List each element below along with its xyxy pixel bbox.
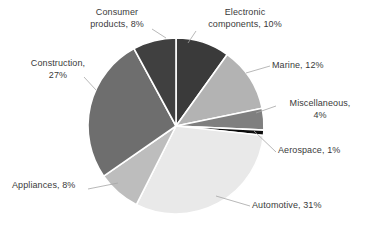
pie-label-miscellaneous: Miscellaneous, 4% bbox=[278, 98, 362, 121]
pie-label-electronic-components: Electronic components, 10% bbox=[186, 7, 304, 30]
pie-label-appliances-text: Appliances, 8% bbox=[12, 180, 98, 192]
pie-label-marine-text: Marine, 12% bbox=[272, 60, 358, 72]
pie-label-electronic-components-line1: Electronic bbox=[186, 7, 304, 19]
pie-label-construction-line2: 27% bbox=[8, 70, 108, 82]
pie-label-construction-line1: Construction, bbox=[8, 58, 108, 70]
pie-label-automotive: Automotive, 31% bbox=[252, 200, 356, 212]
pie-label-aerospace-text: Aerospace, 1% bbox=[278, 145, 362, 157]
pie-chart: Consumer products, 8% Electronic compone… bbox=[0, 0, 365, 229]
pie-slice-group bbox=[88, 38, 264, 214]
leader-line-marine bbox=[246, 66, 270, 73]
pie-label-automotive-text: Automotive, 31% bbox=[252, 200, 356, 212]
pie-label-aerospace: Aerospace, 1% bbox=[278, 145, 362, 157]
pie-label-consumer-products-line1: Consumer bbox=[62, 7, 172, 19]
pie-label-miscellaneous-line2: 4% bbox=[278, 110, 362, 122]
pie-label-consumer-products-line2: products, 8% bbox=[62, 19, 172, 31]
pie-label-electronic-components-line2: components, 10% bbox=[186, 19, 304, 31]
pie-label-miscellaneous-line1: Miscellaneous, bbox=[278, 98, 362, 110]
leader-line-consumer-products bbox=[152, 29, 166, 38]
pie-label-construction: Construction, 27% bbox=[8, 58, 108, 81]
pie-label-consumer-products: Consumer products, 8% bbox=[62, 7, 172, 30]
pie-label-appliances: Appliances, 8% bbox=[12, 180, 98, 192]
pie-label-marine: Marine, 12% bbox=[272, 60, 358, 72]
